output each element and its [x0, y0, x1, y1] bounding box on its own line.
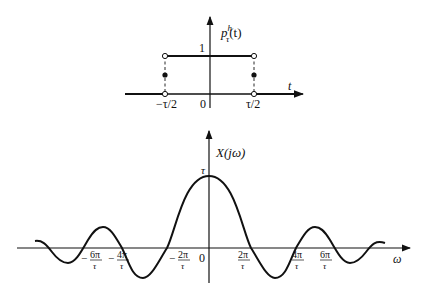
svg-text:τ: τ: [93, 261, 97, 271]
open-dot-bottom-right: [251, 91, 256, 96]
open-dot-top-right: [251, 53, 256, 58]
bottom-y-label: X(jω): [215, 145, 245, 160]
top-origin-label: 0: [200, 97, 206, 111]
top-plot: phτ(t) 1 t −τ/2 0 τ/2: [125, 17, 303, 111]
sinc-curve: [35, 176, 385, 278]
top-x-label: t: [288, 79, 292, 93]
svg-text:−: −: [169, 252, 175, 264]
level-label: 1: [199, 41, 205, 55]
svg-text:τ: τ: [181, 261, 185, 271]
bottom-origin-label: 0: [199, 251, 205, 265]
figure: phτ(t) 1 t −τ/2 0 τ/2 X(jω) τ ω 0 − 6π τ…: [0, 0, 424, 299]
open-dot-top-left: [162, 53, 167, 58]
svg-text:6π: 6π: [320, 249, 330, 260]
tick-pos-4pi: 4π τ: [292, 249, 304, 271]
bottom-plot: X(jω) τ ω 0 − 6π τ − 4π τ − 2π τ 2π τ: [17, 131, 410, 283]
filled-dot-right: [251, 72, 256, 77]
filled-dot-left: [162, 72, 167, 77]
svg-text:2π: 2π: [178, 249, 188, 260]
tick-pos-2pi: 2π τ: [238, 249, 250, 271]
svg-text:−: −: [81, 252, 87, 264]
svg-text:τ: τ: [120, 261, 124, 271]
tick-neg-6pi: − 6π τ: [81, 249, 102, 271]
svg-text:4π: 4π: [117, 249, 127, 260]
svg-text:4π: 4π: [292, 249, 302, 260]
svg-text:τ: τ: [295, 261, 299, 271]
svg-text:τ: τ: [241, 261, 245, 271]
svg-text:6π: 6π: [90, 249, 100, 260]
bottom-x-label: ω: [393, 252, 401, 266]
open-dot-bottom-left: [162, 91, 167, 96]
top-y-label: phτ(t): [220, 23, 242, 44]
tick-pos-half-tau: τ/2: [246, 97, 260, 111]
tick-pos-6pi: 6π τ: [320, 249, 332, 271]
peak-label: τ: [201, 164, 206, 176]
tick-neg-4pi: − 4π τ: [108, 249, 129, 271]
tick-neg-2pi: − 2π τ: [169, 249, 190, 271]
svg-text:τ: τ: [323, 261, 327, 271]
svg-text:2π: 2π: [238, 249, 248, 260]
tick-neg-half-tau: −τ/2: [156, 97, 177, 111]
svg-text:−: −: [108, 252, 114, 264]
